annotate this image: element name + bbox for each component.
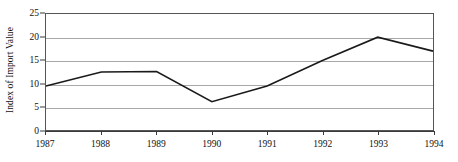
x-axis-tick-mark <box>267 131 268 135</box>
x-axis-tick-label: 1993 <box>369 139 388 149</box>
x-axis-tick-mark <box>434 131 435 135</box>
line-chart: Index of Import Value 0510152025 1987198… <box>0 0 458 162</box>
series-polyline <box>46 37 433 101</box>
x-axis-tick-mark <box>212 131 213 135</box>
x-axis-tick-label: 1989 <box>147 139 166 149</box>
x-axis-tick-label: 1988 <box>91 139 110 149</box>
y-axis-tick-label: 25 <box>30 8 40 18</box>
x-axis-tick-label: 1991 <box>258 139 277 149</box>
y-axis-tick-labels: 0510152025 <box>18 0 42 140</box>
x-axis-tick-labels: 19871988198919901991199219931994 <box>45 139 434 157</box>
y-axis-title-label: Index of Import Value <box>5 27 15 113</box>
y-axis-tick-label: 15 <box>30 55 40 65</box>
x-axis-tick-label: 1987 <box>36 139 55 149</box>
y-axis-tick-label: 5 <box>34 102 39 112</box>
x-axis-tick-mark <box>378 131 379 135</box>
y-axis-tick-label: 10 <box>30 79 40 89</box>
x-axis-tick-label: 1992 <box>313 139 332 149</box>
x-axis-tick-mark <box>45 131 46 135</box>
x-axis-tick-label: 1994 <box>425 139 444 149</box>
y-axis-tick-label: 20 <box>30 32 40 42</box>
x-axis-tick-label: 1990 <box>202 139 221 149</box>
x-axis-tick-mark <box>156 131 157 135</box>
x-axis-tick-mark <box>323 131 324 135</box>
y-axis-tick-label: 0 <box>34 126 39 136</box>
x-axis-tick-marks <box>45 131 434 136</box>
plot-area <box>45 13 434 131</box>
x-axis-tick-mark <box>101 131 102 135</box>
y-axis-title: Index of Import Value <box>0 0 20 140</box>
series-line <box>46 14 433 130</box>
